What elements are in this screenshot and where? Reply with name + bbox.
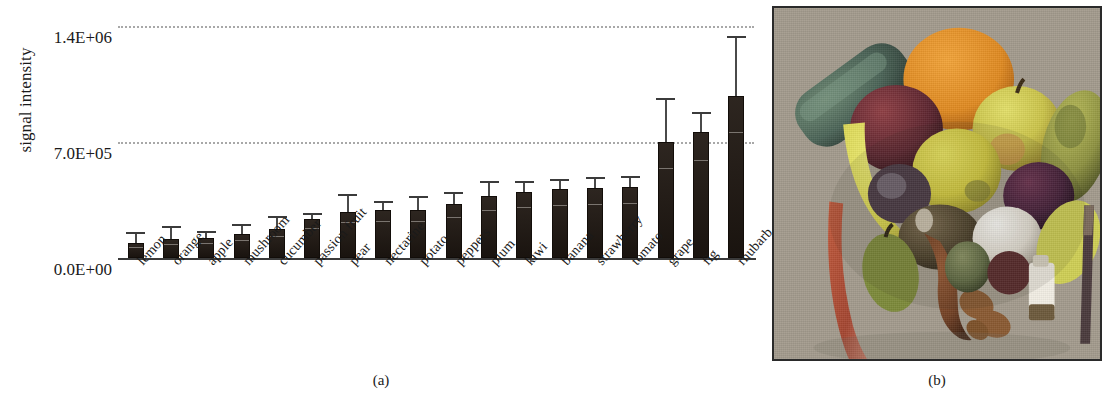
panel-a-caption: (a): [0, 372, 762, 389]
photo-frame: [772, 6, 1102, 361]
error-bar-cap: [515, 181, 534, 183]
error-bar-cap: [621, 176, 640, 178]
plot-area: [118, 12, 754, 258]
error-bar-cap: [656, 98, 675, 100]
error-bar: [382, 203, 384, 210]
bar-group: [119, 12, 153, 258]
bar: [728, 96, 744, 258]
y-axis-tick-group: 1.4E+06 7.0E+05 0.0E+00: [0, 12, 112, 258]
error-bar-cap: [444, 192, 463, 194]
error-bar: [523, 183, 525, 192]
bar-group: [225, 12, 259, 258]
error-bar: [453, 194, 455, 204]
bar-group: [472, 12, 506, 258]
bar: [587, 188, 603, 258]
error-bar: [170, 228, 172, 239]
error-bar-cap: [162, 226, 181, 228]
error-bar: [347, 196, 349, 212]
bar-group: [649, 12, 683, 258]
bar-group: [543, 12, 577, 258]
x-axis-tick-group: lemonorangeapplemushroomcucumberpassion …: [118, 258, 758, 368]
error-bar-cap: [374, 201, 393, 203]
panel-a-bar-chart: signal intensity 1.4E+06 7.0E+05 0.0E+00…: [0, 0, 762, 397]
panel-b-caption: (b): [762, 372, 1112, 389]
error-bar: [135, 234, 137, 243]
panel-b-photograph: (b): [762, 0, 1112, 397]
bar-group: [719, 12, 753, 258]
error-bar: [665, 100, 667, 142]
bar: [693, 132, 709, 258]
error-bar-cap: [692, 112, 711, 114]
photo-grain-overlay: [774, 8, 1100, 359]
y-axis-tick-label: 1.4E+06: [2, 29, 112, 46]
bar: [552, 189, 568, 258]
error-bar-cap: [480, 181, 499, 183]
y-axis-tick-label: 7.0E+05: [2, 145, 112, 162]
bar-group: [366, 12, 400, 258]
error-bar-cap: [586, 177, 605, 179]
bar-series: [118, 12, 754, 258]
bar-group: [578, 12, 612, 258]
error-bar: [488, 183, 490, 195]
error-bar-cap: [232, 224, 251, 226]
bar-group: [189, 12, 223, 258]
bar-group: [154, 12, 188, 258]
bar-group: [437, 12, 471, 258]
error-bar: [700, 114, 702, 132]
error-bar: [559, 181, 561, 189]
bar-group: [684, 12, 718, 258]
y-axis-tick-label: 0.0E+00: [2, 261, 112, 278]
error-bar: [241, 226, 243, 234]
error-bar: [594, 179, 596, 187]
bar-group: [507, 12, 541, 258]
error-bar-cap: [409, 196, 428, 198]
error-bar: [417, 198, 419, 210]
error-bar-cap: [727, 36, 746, 38]
error-bar: [735, 38, 737, 95]
error-bar: [629, 178, 631, 187]
error-bar-cap: [550, 179, 569, 181]
error-bar-cap: [126, 232, 145, 234]
error-bar-cap: [338, 194, 357, 196]
